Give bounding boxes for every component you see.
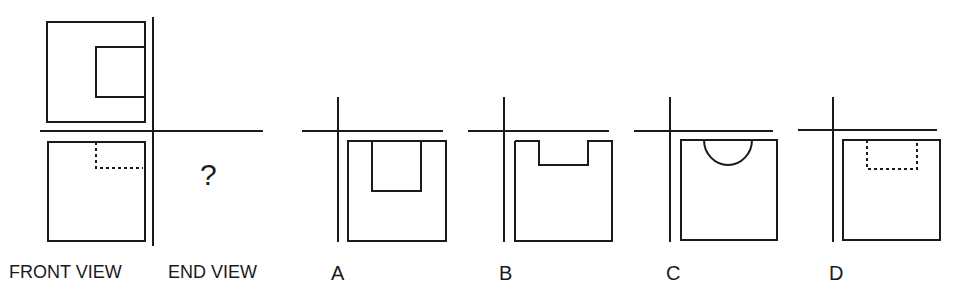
top-view (47, 22, 145, 122)
unknown-end-view-question-mark: ? (200, 158, 217, 192)
front-view-label: FRONT VIEW (9, 262, 122, 283)
option-d-label[interactable]: D (829, 262, 843, 285)
option-b-figure[interactable] (468, 97, 612, 242)
option-c-figure[interactable] (634, 97, 777, 242)
option-b-label[interactable]: B (499, 262, 512, 285)
end-view-label: END VIEW (168, 262, 257, 283)
option-d-figure[interactable] (798, 97, 940, 242)
option-a-figure[interactable] (302, 97, 446, 242)
diagram-canvas (0, 0, 958, 299)
option-a-label[interactable]: A (331, 262, 344, 285)
option-c-label[interactable]: C (666, 262, 680, 285)
front-view (48, 142, 145, 241)
